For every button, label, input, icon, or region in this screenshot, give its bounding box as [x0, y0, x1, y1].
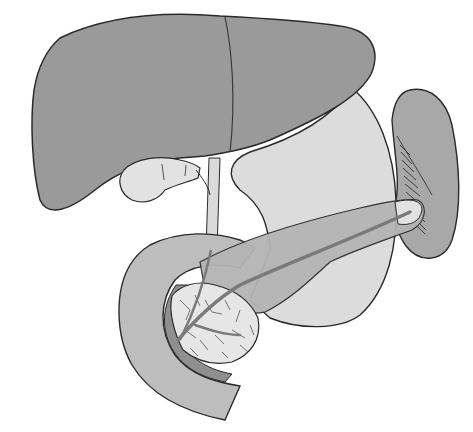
anatomy-illustration: Liver, gallbladder, stomach, spleen, pan…	[0, 0, 473, 432]
gallbladder	[120, 158, 200, 202]
anatomy-svg	[0, 0, 473, 432]
